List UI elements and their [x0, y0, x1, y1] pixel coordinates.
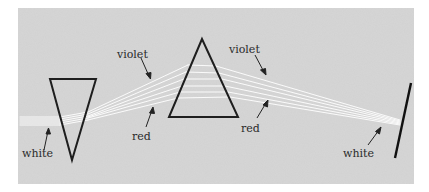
label-white-right: white	[343, 147, 374, 160]
label-red-left: red	[132, 130, 151, 143]
label-red-right: red	[241, 122, 260, 135]
label-violet-right: violet	[228, 43, 260, 56]
diagram-canvas: white violet red violet red white	[0, 0, 429, 192]
label-white-left: white	[22, 147, 53, 160]
prism-diagram: white violet red violet red white	[0, 0, 429, 192]
label-violet-left: violet	[116, 48, 148, 61]
